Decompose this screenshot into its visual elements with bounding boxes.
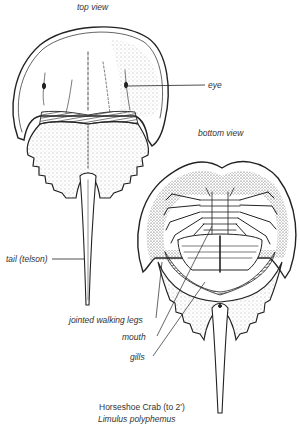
bottom-telson: [212, 304, 228, 414]
caption-scientific-name: Limulus polyphemus: [98, 414, 175, 424]
legs-leader-line: [156, 262, 162, 318]
caption-common-name: Horseshoe Crab (to 2'): [99, 402, 185, 412]
bottom-view-label: bottom view: [198, 128, 243, 138]
right-eye-icon: [125, 82, 128, 88]
bottom-view-crab: [138, 162, 296, 413]
tail-telson-label: tail (telson): [6, 254, 48, 264]
eye-label: eye: [208, 80, 222, 90]
gills-label: gills: [130, 352, 145, 362]
horseshoe-crab-illustration: [0, 0, 300, 430]
top-view-label: top view: [77, 2, 108, 12]
left-eye-icon: [43, 83, 46, 89]
jointed-walking-legs-label: jointed walking legs: [69, 315, 143, 325]
mouth-label: mouth: [122, 332, 146, 342]
